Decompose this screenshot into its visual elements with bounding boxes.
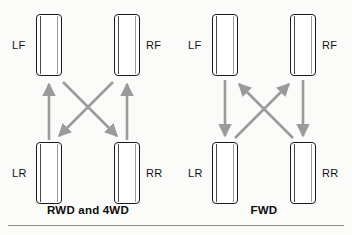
wheel-label-rr: RR — [146, 168, 163, 179]
tire-sidewall-line-right — [135, 16, 136, 74]
tire-sidewall-line-right — [311, 144, 312, 202]
wheel-lf — [212, 14, 238, 76]
wheel-label-rr: RR — [322, 168, 339, 179]
diagram-rwd-4wd: LF RF LR RR RWD and 4WD — [0, 0, 176, 218]
wheel-lf — [36, 14, 62, 76]
tire-sidewall-line — [40, 144, 41, 202]
tire-sidewall-line — [216, 16, 217, 74]
tire-sidewall-line — [118, 144, 119, 202]
tire-sidewall-line — [216, 144, 217, 202]
tire-sidewall-line-right — [233, 16, 234, 74]
tire-sidewall-line-right — [311, 16, 312, 74]
wheel-label-rf: RF — [322, 40, 337, 51]
arrow-rf-to-lr — [59, 82, 113, 136]
wheel-label-lf: LF — [188, 40, 201, 51]
tire-sidewall-line-right — [57, 144, 58, 202]
wheel-label-lr: LR — [188, 168, 203, 179]
wheel-rr — [290, 142, 316, 204]
arrow-lr-to-rf — [235, 84, 289, 138]
wheel-rf — [114, 14, 140, 76]
tire-rotation-figure: LF RF LR RR RWD and 4WD — [0, 0, 352, 235]
wheel-rr — [114, 142, 140, 204]
wheel-label-lf: LF — [12, 40, 25, 51]
caption-rwd-4wd: RWD and 4WD — [0, 205, 176, 217]
wheel-lr — [36, 142, 62, 204]
arrow-lf-to-rr — [63, 82, 117, 136]
caption-fwd: FWD — [176, 205, 352, 217]
wheel-label-lr: LR — [12, 168, 27, 179]
wheel-rf — [290, 14, 316, 76]
arrow-rr-to-lf — [239, 84, 293, 138]
tire-sidewall-line-right — [135, 144, 136, 202]
tire-sidewall-line — [294, 144, 295, 202]
tire-sidewall-line — [118, 16, 119, 74]
tire-sidewall-line — [40, 16, 41, 74]
arrow-layer-rwd — [0, 0, 176, 218]
footer-divider — [8, 225, 344, 226]
tire-sidewall-line-right — [57, 16, 58, 74]
tire-sidewall-line-right — [233, 144, 234, 202]
wheel-label-rf: RF — [146, 40, 161, 51]
diagram-fwd: LF RF LR RR FWD — [176, 0, 352, 218]
arrow-layer-fwd — [176, 0, 352, 218]
tire-sidewall-line — [294, 16, 295, 74]
wheel-lr — [212, 142, 238, 204]
